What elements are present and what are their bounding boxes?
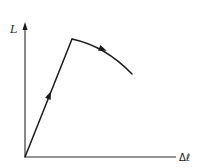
loading-direction-arrow-icon xyxy=(45,90,54,100)
post-peak-curve xyxy=(72,39,132,74)
y-axis-label: L xyxy=(9,23,17,36)
force-extension-diagram: L Δℓ xyxy=(0,0,201,168)
x-axis: Δℓ xyxy=(25,152,190,163)
y-axis-arrow-icon xyxy=(23,22,28,30)
loading-line xyxy=(25,39,72,157)
x-axis-label: Δℓ xyxy=(179,152,190,163)
y-axis: L xyxy=(9,22,28,157)
